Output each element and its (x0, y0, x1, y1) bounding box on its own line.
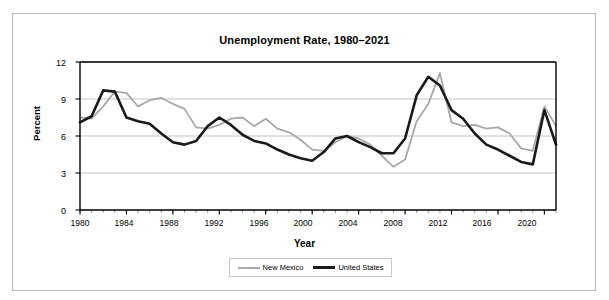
series-line-new-mexico (80, 73, 556, 167)
chart-legend: New Mexico United States (229, 258, 392, 277)
data-series-layer (80, 73, 556, 167)
axis-major-ticks (76, 62, 545, 215)
chart-figure: Unemployment Rate, 1980–2021 Percent Yea… (0, 0, 609, 300)
legend-swatch-united-states (313, 266, 335, 269)
legend-label-united-states: United States (338, 263, 383, 272)
legend-label-new-mexico: New Mexico (263, 263, 304, 272)
series-line-united-states (80, 77, 556, 165)
legend-item-united-states: United States (313, 263, 383, 272)
plot-area (0, 0, 609, 300)
legend-swatch-new-mexico (238, 267, 260, 269)
legend-item-new-mexico: New Mexico (238, 263, 304, 272)
